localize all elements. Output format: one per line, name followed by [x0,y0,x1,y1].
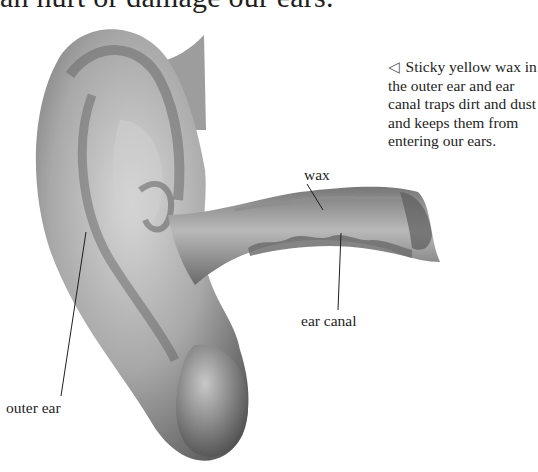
label-outer-ear: outer ear [6,399,61,417]
triangle-pointer-icon: ◁ [388,58,400,77]
caption: ◁Sticky yellow wax in the outer ear and … [388,58,538,151]
ear-canal-shape [168,187,440,285]
label-ear-canal: ear canal [301,312,357,330]
label-wax: wax [304,166,330,184]
caption-text: Sticky yellow wax in the outer ear and e… [388,58,537,149]
